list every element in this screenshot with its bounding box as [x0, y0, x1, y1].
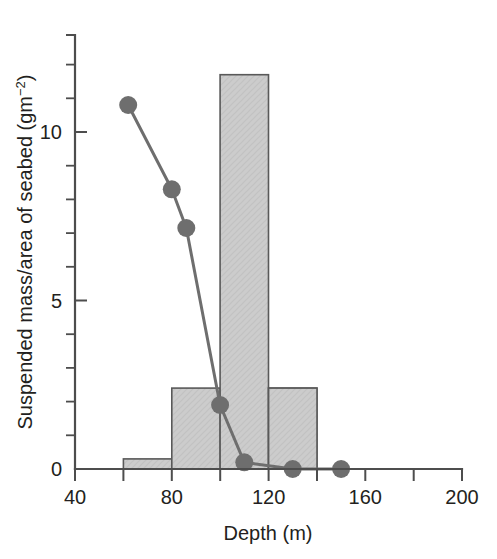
y-axis-title-exponent: −2	[13, 81, 28, 96]
y-axis: 0 5 10	[40, 35, 87, 480]
y-tick-label-10: 10	[40, 121, 62, 143]
x-axis: 40 80 120 160 200	[64, 469, 479, 508]
chart-figure: 0 5 10 40 80 120 160 200 Depth (m)	[0, 0, 497, 559]
data-point-marker	[119, 96, 137, 114]
x-tick-label-120: 120	[252, 486, 285, 508]
data-point-marker	[211, 396, 229, 414]
x-tick-label-200: 200	[445, 486, 478, 508]
data-point-marker	[163, 180, 181, 198]
bar-120-140	[269, 388, 317, 469]
x-axis-title: Depth (m)	[224, 522, 313, 544]
chart-svg: 0 5 10 40 80 120 160 200 Depth (m)	[0, 0, 497, 559]
y-axis-title: Suspended mass/area of seabed (gm−2)	[13, 74, 36, 429]
y-axis-title-group: Suspended mass/area of seabed (gm−2)	[13, 74, 36, 429]
x-tick-label-40: 40	[64, 486, 86, 508]
x-tick-label-80: 80	[161, 486, 183, 508]
bar-40-60	[123, 459, 171, 469]
y-tick-label-0: 0	[51, 458, 62, 480]
x-tick-label-160: 160	[349, 486, 382, 508]
y-axis-title-main: Suspended mass/area of seabed (gm	[14, 96, 36, 430]
y-axis-title-tail: )	[14, 74, 36, 81]
data-point-marker	[177, 219, 195, 237]
y-tick-label-5: 5	[51, 290, 62, 312]
